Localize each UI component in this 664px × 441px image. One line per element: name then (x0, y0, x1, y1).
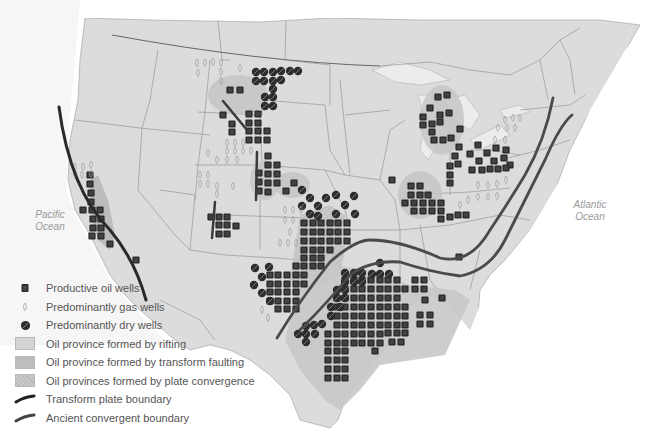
transform-swatch (15, 356, 35, 369)
atlantic-ocean-label: Atlantic Ocean (560, 199, 620, 223)
dry-well-icon (12, 317, 38, 333)
legend-item-dry-wells: Predominantly dry wells (12, 316, 262, 335)
legend-item-plate-convergence: Oil provinces formed by plate convergenc… (12, 372, 262, 391)
pacific-ocean-label: Pacific Ocean (20, 209, 80, 233)
oil-well-icon (12, 280, 38, 296)
legend-item-transform-faulting: Oil province formed by transform faultin… (12, 353, 262, 372)
legend-item-rifting: Oil province formed by rifting (12, 335, 262, 354)
legend-item-gas-wells: Predominantly gas wells (12, 298, 262, 317)
gas-well-icon (12, 299, 38, 315)
transform-boundary-line-icon (12, 391, 38, 407)
map-legend: Productive oil wells Predominantly gas w… (12, 279, 262, 427)
legend-item-transform-boundary: Transform plate boundary (12, 390, 262, 409)
rifting-swatch (15, 337, 35, 350)
legend-item-oil-wells: Productive oil wells (12, 279, 262, 298)
convergence-swatch (15, 374, 35, 387)
convergent-boundary-line-icon (12, 410, 38, 426)
legend-item-convergent-boundary: Ancient convergent boundary (12, 409, 262, 428)
rift-fault-colorado (256, 152, 257, 200)
